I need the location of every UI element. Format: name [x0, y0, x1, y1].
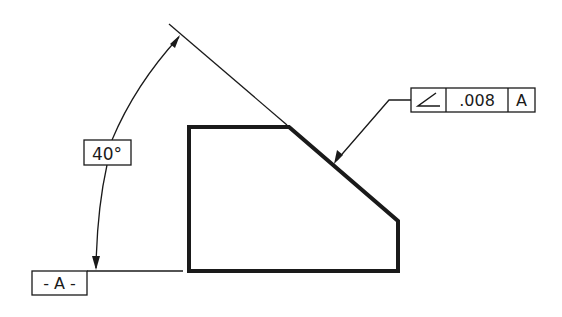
angle-value: 40° — [92, 144, 122, 164]
part-outline — [189, 127, 398, 271]
arrowhead-lower-icon — [92, 256, 100, 270]
datum-reference: A — [516, 91, 527, 110]
angularity-drawing: 40° - A - .008 A — [0, 0, 562, 317]
leader-line — [337, 100, 411, 160]
extension-line-angled — [169, 24, 287, 125]
angle-dimension-arc-upper — [112, 37, 179, 140]
tolerance-value: .008 — [459, 91, 495, 110]
angle-dimension-box: 40° — [84, 140, 131, 165]
datum-label: - A - — [43, 274, 76, 293]
feature-control-frame: .008 A — [411, 88, 535, 112]
leader-arrowhead-icon — [334, 150, 343, 164]
angle-dimension-arc-lower — [96, 165, 107, 268]
datum-identifier: - A - — [32, 271, 87, 295]
